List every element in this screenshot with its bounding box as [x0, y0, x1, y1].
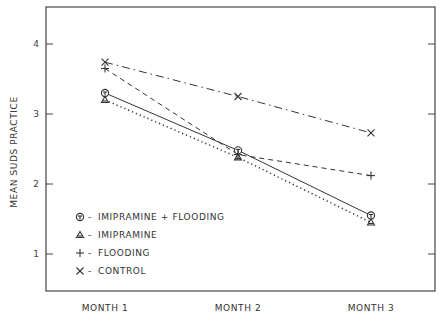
series-line-imipramine: [105, 100, 371, 223]
x-tick-label: MONTH 3: [348, 303, 395, 313]
legend-label: FLOODING: [98, 248, 150, 258]
y-tick-label: 1: [33, 249, 39, 259]
x-tick-label: MONTH 1: [82, 303, 129, 313]
y-tick-label: 3: [33, 109, 39, 119]
circle-bar-marker-icon: [76, 213, 83, 220]
legend: -IMIPRAMINE + FLOODING-IMIPRAMINE-FLOODI…: [76, 212, 225, 276]
legend-separator: -: [88, 266, 92, 276]
legend-item: -CONTROL: [77, 266, 147, 276]
legend-separator: -: [88, 212, 92, 222]
y-tick-label: 4: [33, 39, 39, 49]
legend-separator: -: [88, 248, 92, 258]
legend-item: -FLOODING: [76, 248, 150, 258]
x-marker-icon: [235, 93, 242, 100]
x-axis-labels: MONTH 1MONTH 2MONTH 3: [82, 303, 395, 313]
chart: 1234 MONTH 1MONTH 2MONTH 3 MEAN SUDS PRA…: [0, 0, 444, 322]
x-marker-icon: [368, 129, 375, 136]
y-tick-label: 2: [33, 179, 39, 189]
triangle-marker-icon: [102, 97, 109, 103]
legend-item: -IMIPRAMINE: [77, 230, 158, 240]
triangle-marker-icon: [77, 232, 84, 238]
legend-item: -IMIPRAMINE + FLOODING: [76, 212, 224, 222]
legend-label: CONTROL: [98, 266, 146, 276]
legend-label: IMIPRAMINE: [98, 230, 157, 240]
y-axis-label: MEAN SUDS PRACTICE: [9, 96, 19, 208]
series-lines: [101, 59, 375, 225]
x-marker-icon: [77, 268, 84, 275]
plus-marker-icon: [76, 249, 84, 257]
x-tick-label: MONTH 2: [215, 303, 262, 313]
plus-marker-icon: [367, 172, 375, 180]
series-line-control: [105, 62, 371, 133]
legend-label: IMIPRAMINE + FLOODING: [98, 212, 225, 222]
legend-separator: -: [88, 230, 92, 240]
